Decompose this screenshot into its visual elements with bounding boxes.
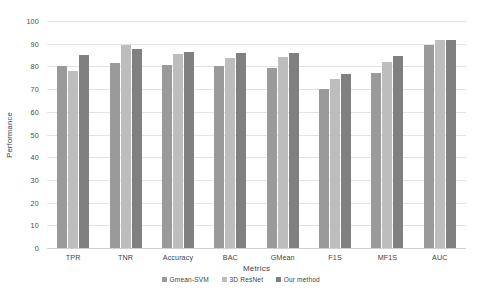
bar-group [414,21,466,248]
bar [132,49,142,248]
bar-group [152,21,204,248]
x-axis-tick-label: TPR [47,249,99,265]
bar-group [309,21,361,248]
bar [424,45,434,248]
bar [173,54,183,248]
bar-group [361,21,413,248]
legend-item[interactable]: Our method [276,276,320,283]
x-axis-tick-label: F1S [309,249,361,265]
chart-legend: Gmean-SVM3D ResNetOur method [0,276,482,283]
x-axis-tick-label: BAC [204,249,256,265]
y-axis-tick-label: 20 [31,198,39,207]
plot-area [47,21,466,248]
bar [446,40,456,248]
bar [267,68,277,248]
y-axis-title: Performance [5,90,14,180]
bar-group [99,21,151,248]
bar-chart: Performance 1009080706050403020100 TPRTN… [0,0,482,291]
y-axis-tick-label: 80 [31,62,39,71]
bar [289,53,299,248]
bar [341,74,351,248]
y-axis-tick-label: 0 [35,244,39,253]
legend-label: Our method [284,276,320,283]
x-axis-tick-label: GMean [257,249,309,265]
bar-groups [47,21,466,248]
bar [68,71,78,248]
bar [214,66,224,248]
y-axis-tick-label: 90 [31,39,39,48]
bar [79,55,89,248]
y-axis-tick-label: 40 [31,153,39,162]
bar [319,89,329,248]
bar [110,63,120,248]
y-axis-tick-label: 30 [31,175,39,184]
legend-label: Gmean-SVM [170,276,209,283]
bar [236,53,246,248]
bar [393,56,403,248]
y-axis-tick-label: 100 [26,17,39,26]
y-axis-tick-label: 70 [31,85,39,94]
bar [371,73,381,248]
x-axis-title: Metrics [47,264,466,273]
x-axis-ticks: TPRTNRAccuracyBACGMeanF1SMF1SAUC [47,249,466,265]
x-axis-tick-label: MF1S [361,249,413,265]
legend-item[interactable]: Gmean-SVM [162,276,209,283]
legend-item[interactable]: 3D ResNet [222,276,263,283]
bar [162,65,172,248]
legend-swatch-icon [162,277,167,282]
y-axis-tick-label: 60 [31,107,39,116]
y-axis: Performance 1009080706050403020100 [0,21,45,248]
y-axis-tick-label: 50 [31,130,39,139]
bar-group [47,21,99,248]
bar [435,40,445,248]
bar [330,79,340,248]
x-axis-tick-label: TNR [99,249,151,265]
bar [121,45,131,248]
bar-group [204,21,256,248]
x-axis-tick-label: AUC [414,249,466,265]
bar [382,62,392,248]
bar [57,66,67,248]
bar [278,57,288,248]
legend-swatch-icon [276,277,281,282]
bar [184,52,194,248]
bar [225,58,235,248]
legend-label: 3D ResNet [230,276,264,283]
legend-swatch-icon [222,277,227,282]
x-axis-tick-label: Accuracy [152,249,204,265]
y-axis-tick-label: 10 [31,221,39,230]
bar-group [257,21,309,248]
